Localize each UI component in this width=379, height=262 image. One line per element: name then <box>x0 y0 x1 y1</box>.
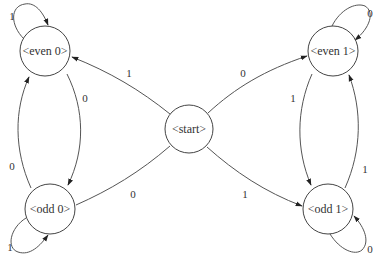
edge-label-even0-self: 1 <box>9 10 15 22</box>
edge-start-odd0 <box>76 146 170 205</box>
edge-label-odd1-self: 0 <box>367 243 373 255</box>
edge-start-odd1 <box>207 147 302 206</box>
node-even0-label: <even 0> <box>22 44 67 58</box>
edge-label-start-even0: 1 <box>126 67 132 79</box>
edge-odd1-even1 <box>345 75 358 188</box>
edge-label-start-odd0: 0 <box>130 188 136 200</box>
node-odd1-label: <odd 1> <box>308 202 349 216</box>
node-start: <start> <box>165 105 213 153</box>
state-diagram: 1 0 0 1 1 0 0 1 0 1 1 0 <even 0> <odd 0>… <box>0 0 379 262</box>
node-even1: <even 1> <box>308 26 358 76</box>
edge-label-odd0-self: 1 <box>7 241 13 253</box>
node-odd0: <odd 0> <box>25 184 75 234</box>
node-start-label: <start> <box>172 122 206 136</box>
node-odd0-label: <odd 0> <box>30 202 71 216</box>
edge-even1-odd1 <box>300 74 312 185</box>
edge-label-odd1-even1: 1 <box>362 163 368 175</box>
edge-label-start-even1: 0 <box>240 67 246 79</box>
edge-label-even1-self: 0 <box>367 7 373 19</box>
edge-start-even1 <box>208 56 307 113</box>
edge-label-start-odd1: 1 <box>242 188 248 200</box>
edge-even0-odd0 <box>67 74 81 185</box>
node-even0: <even 0> <box>20 26 70 76</box>
edge-label-even0-odd0: 0 <box>82 92 88 104</box>
edge-label-even1-odd1: 1 <box>290 92 296 104</box>
edge-label-odd0-even0: 0 <box>9 160 15 172</box>
edge-odd0-even0 <box>18 77 31 188</box>
node-odd1: <odd 1> <box>303 184 353 234</box>
node-even1-label: <even 1> <box>310 44 355 58</box>
edge-start-even0 <box>72 57 170 114</box>
